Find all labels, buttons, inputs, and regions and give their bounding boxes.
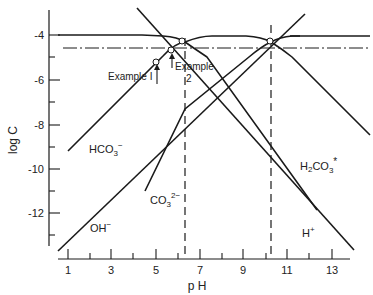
x-tick-label: 13 — [326, 264, 338, 276]
y-tick-label: -8 — [34, 119, 44, 131]
h2co3-label: H2CO3* — [300, 156, 337, 175]
y-ticks — [49, 35, 60, 235]
co3-label: CO32− — [150, 191, 180, 209]
oh-minus-line — [58, 14, 305, 251]
x-axis-title: p H — [188, 279, 207, 293]
y-axis-title: log C — [6, 126, 20, 154]
y-tick-label: -10 — [28, 163, 44, 175]
h-plus-label: H+ — [302, 225, 315, 239]
co3-curve — [145, 36, 300, 191]
x-tick-label: 5 — [153, 264, 159, 276]
oh-label: OH− — [90, 220, 112, 234]
hco3-curve — [68, 36, 370, 151]
example2-label-number: 2 — [186, 73, 192, 84]
x-ticks — [68, 249, 332, 259]
example1-label: Example I — [108, 71, 152, 82]
x-tick-label: 9 — [240, 264, 246, 276]
carbonate-log-c-ph-diagram: -4 -6 -8 -10 -12 1 3 5 7 9 11 13 p H log… — [0, 0, 373, 295]
example2-arrowhead — [169, 53, 175, 59]
example2-point — [168, 47, 174, 53]
x-tick-label: 1 — [65, 264, 71, 276]
x-tick-label: 7 — [197, 264, 203, 276]
x-tick-label: 3 — [108, 264, 114, 276]
x-tick-label: 11 — [281, 264, 292, 276]
y-tick-label: -6 — [34, 74, 44, 86]
h-plus-line — [137, 8, 354, 250]
y-tick-label: -4 — [34, 29, 44, 41]
hco3-label: HCO3− — [89, 141, 123, 158]
pk1-intersection-marker — [179, 38, 185, 44]
y-tick-label: -12 — [28, 207, 44, 219]
pk2-intersection-marker — [267, 38, 273, 44]
example1-point — [153, 59, 159, 65]
h2co3-curve — [142, 35, 317, 210]
example2-label: Example — [175, 61, 214, 72]
